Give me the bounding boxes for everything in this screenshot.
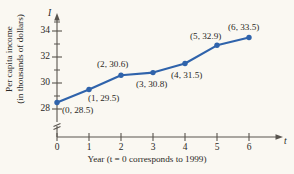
y-axis-title-line2: (in thousands of dollars)	[15, 0, 26, 121]
point-label-6: (6, 33.5)	[228, 22, 259, 32]
point-label-0: (0, 28.5)	[62, 105, 93, 115]
data-point-2	[118, 73, 123, 78]
point-label-4: (4, 31.5)	[171, 70, 202, 80]
x-tick-label-1: 1	[79, 142, 99, 152]
x-tick-label-3: 3	[143, 142, 163, 152]
x-tick-label-2: 2	[111, 142, 131, 152]
data-point-5	[214, 43, 219, 48]
y-axis-title-line1: Per capita income	[4, 0, 15, 121]
point-label-1: (1, 29.5)	[88, 93, 119, 103]
point-label-3: (3, 30.8)	[136, 79, 167, 89]
y-tick-label-30: 30	[28, 77, 50, 87]
data-point-3	[150, 70, 155, 75]
x-axis-arrow-icon	[276, 134, 284, 140]
x-tick-label-4: 4	[175, 142, 195, 152]
y-axis-arrow-icon	[54, 13, 60, 21]
y-tick-label-28: 28	[28, 103, 50, 113]
data-point-1	[86, 87, 91, 92]
data-point-4	[182, 61, 187, 66]
point-label-2: (2, 30.6)	[97, 59, 128, 69]
x-axis-symbol: t	[284, 136, 287, 146]
point-label-5: (5, 32.9)	[190, 31, 221, 41]
y-tick-label-32: 32	[28, 51, 50, 61]
y-tick-label-34: 34	[28, 25, 50, 35]
y-axis-symbol: I	[48, 8, 51, 18]
data-point-6	[246, 35, 251, 40]
x-tick-label-5: 5	[207, 142, 227, 152]
x-axis-title: Year (t = 0 corresponds to 1999)	[0, 154, 294, 164]
x-tick-label-6: 6	[239, 142, 259, 152]
data-point-0	[54, 100, 59, 105]
x-tick-label-0: 0	[47, 142, 67, 152]
chart-figure: I t 34 32 30 28 0 1 2 3 4 5 6 (0, 28.5) …	[0, 0, 294, 174]
y-axis-title: Per capita income (in thousands of dolla…	[4, 0, 26, 121]
